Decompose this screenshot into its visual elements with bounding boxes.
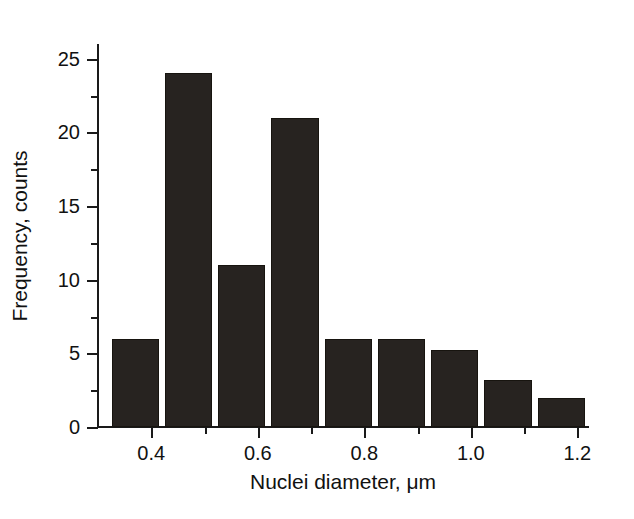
x-axis-tick-label: 0.6 xyxy=(244,443,272,463)
y-axis-tick-label: 15 xyxy=(58,196,80,216)
x-axis-minor-tick xyxy=(418,427,420,434)
histogram-bar xyxy=(484,380,531,427)
y-axis-tick xyxy=(87,59,98,61)
histogram-bar xyxy=(431,350,478,427)
histogram-figure: 05101520250.40.60.81.01.2 Frequency, cou… xyxy=(0,0,634,519)
x-axis-tick xyxy=(151,427,153,438)
y-axis-title-wrap: Frequency, counts xyxy=(0,44,40,427)
y-axis-tick-label: 5 xyxy=(69,343,80,363)
y-axis-minor-tick xyxy=(91,390,98,392)
x-axis-tick-label: 1.0 xyxy=(457,443,485,463)
y-axis-title: Frequency, counts xyxy=(8,150,32,321)
x-axis-tick xyxy=(577,427,579,438)
x-axis-minor-tick xyxy=(311,427,313,434)
y-axis-tick-label: 10 xyxy=(58,270,80,290)
y-axis-tick xyxy=(87,280,98,282)
y-axis-tick xyxy=(87,353,98,355)
x-axis-tick xyxy=(258,427,260,438)
histogram-bar xyxy=(165,73,212,427)
y-axis-minor-tick xyxy=(91,317,98,319)
y-axis-tick-label: 25 xyxy=(58,49,80,69)
histogram-bar xyxy=(378,339,425,427)
x-axis-tick xyxy=(471,427,473,438)
y-axis-minor-tick xyxy=(91,169,98,171)
y-axis-minor-tick xyxy=(91,243,98,245)
y-axis-tick xyxy=(87,132,98,134)
histogram-bar xyxy=(325,339,372,427)
y-axis-tick-label: 0 xyxy=(69,417,80,437)
y-axis-tick xyxy=(87,427,98,429)
x-axis-tick-label: 1.2 xyxy=(563,443,591,463)
x-axis-tick-label: 0.8 xyxy=(350,443,378,463)
histogram-bar xyxy=(271,118,318,427)
x-axis-tick xyxy=(364,427,366,438)
x-axis-minor-tick xyxy=(524,427,526,434)
histogram-bar xyxy=(538,398,585,427)
y-axis-tick-label: 20 xyxy=(58,122,80,142)
x-axis-minor-tick xyxy=(205,427,207,434)
x-axis-tick-label: 0.4 xyxy=(137,443,165,463)
y-axis-minor-tick xyxy=(91,96,98,98)
y-axis-tick xyxy=(87,206,98,208)
x-axis-title: Nuclei diameter, μm xyxy=(98,470,588,494)
histogram-bar xyxy=(112,339,159,427)
histogram-bar xyxy=(218,265,265,427)
plot-area: 05101520250.40.60.81.01.2 xyxy=(98,44,588,427)
